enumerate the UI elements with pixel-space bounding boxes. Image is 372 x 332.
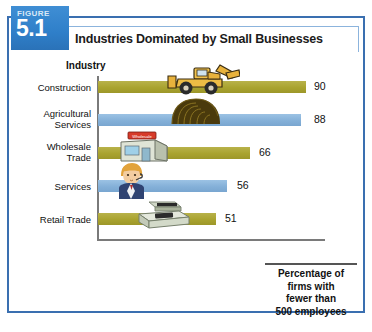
caption-line-3: fewer than	[257, 293, 365, 306]
axis-label-industry: Industry	[66, 60, 105, 71]
value-label-wholesale-trade: 66	[259, 146, 271, 158]
caption-line-4: 500 employees	[257, 306, 365, 319]
wholesale-store-icon: Wholesale	[115, 130, 175, 164]
caption-rule	[265, 263, 357, 265]
bulldozer-icon	[164, 62, 240, 96]
category-label-wholesale-2: Trade	[1, 152, 91, 163]
category-label-agricultural: Agricultural	[1, 108, 91, 119]
chart-row-wholesale-trade: Wholesale Trade 66 Wholesale	[9, 146, 367, 178]
service-worker-icon	[109, 161, 153, 199]
plowed-field-icon	[164, 97, 226, 127]
x-axis-caption: Percentage of firms with fewer than 500 …	[257, 268, 365, 318]
chart-plot-area: Industry Construction 90	[9, 54, 367, 279]
category-label-retail-trade: Retail Trade	[1, 214, 91, 225]
caption-line-2: firms with	[257, 281, 365, 294]
category-label-construction: Construction	[1, 82, 91, 93]
category-label-services: Services	[1, 181, 91, 192]
figure-frame: FIGURE 5.1 Industries Dominated by Small…	[7, 16, 365, 313]
category-label-wholesale: Wholesale	[1, 141, 91, 152]
category-label-agricultural-2: Services	[1, 119, 91, 130]
cash-register-icon	[131, 198, 193, 232]
caption-line-1: Percentage of	[257, 268, 365, 281]
svg-text:Wholesale: Wholesale	[132, 134, 152, 139]
value-label-agricultural-services: 88	[314, 113, 326, 125]
figure-title: Industries Dominated by Small Businesses	[75, 32, 323, 46]
chart-row-retail-trade: Retail Trade 51	[9, 212, 367, 244]
value-label-construction: 90	[314, 80, 326, 92]
figure-badge: FIGURE 5.1	[11, 6, 69, 50]
value-label-retail-trade: 51	[225, 212, 237, 224]
figure-badge-number: 5.1	[16, 17, 46, 40]
value-label-services: 56	[237, 179, 249, 191]
